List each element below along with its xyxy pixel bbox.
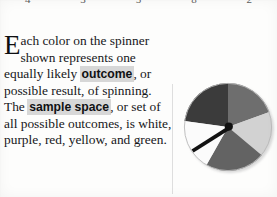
term-outcome: outcome xyxy=(81,67,134,81)
top-number-row: 4 3 5 8 2 xyxy=(0,0,277,9)
document-page: 4 3 5 8 2 Each color on the spinner show… xyxy=(0,0,277,197)
spinner-hub xyxy=(225,123,233,131)
top-number-4: 8 xyxy=(166,0,221,5)
top-number-2: 3 xyxy=(55,0,110,5)
top-number-3: 5 xyxy=(111,0,166,5)
drop-cap: E xyxy=(4,33,21,56)
term-sample-space: sample space xyxy=(28,100,110,114)
spinner-figure xyxy=(183,82,273,172)
spinner-svg xyxy=(183,82,273,172)
top-number-5: 2 xyxy=(222,0,277,5)
top-number-1: 4 xyxy=(0,0,55,5)
body-paragraph: Each color on the spinner shown represen… xyxy=(4,33,174,149)
